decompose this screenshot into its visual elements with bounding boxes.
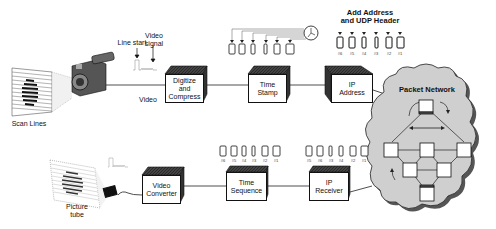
header-packets bbox=[337, 37, 404, 48]
clock-icon bbox=[304, 26, 318, 40]
video-converter-label: Video Converter bbox=[142, 175, 181, 204]
time-sequence-label: Time Sequence bbox=[226, 172, 267, 201]
video-line-label: Video bbox=[136, 96, 160, 104]
header-packet-label: #3 bbox=[371, 51, 381, 56]
timestamp-packets bbox=[229, 44, 294, 54]
header-packet-label: #2 bbox=[384, 51, 394, 56]
sequenced-packets bbox=[220, 146, 280, 156]
picture-tube-icon bbox=[50, 158, 128, 208]
add-address-label: Add Address and UDP Header bbox=[330, 9, 410, 25]
receiver-packets bbox=[306, 146, 368, 156]
video-over-ip-diagram: Scan Lines Line start Video signal Video… bbox=[0, 0, 496, 229]
receiver-packet-label: #5 bbox=[304, 158, 314, 163]
sequenced-packet-label: #3 bbox=[249, 158, 259, 163]
video-camera-icon bbox=[72, 52, 115, 96]
ip-receiver-label: IP Receiver bbox=[309, 172, 349, 201]
sequenced-packet-label: #1 bbox=[271, 158, 281, 163]
receiver-packet-label: #4 bbox=[336, 158, 346, 163]
header-packet-label: #6 bbox=[335, 51, 345, 56]
ip-address-label: IP Address bbox=[331, 74, 373, 103]
header-packet-label: #5 bbox=[347, 51, 357, 56]
receiver-packet-label: #2 bbox=[348, 158, 358, 163]
receiver-packet-label: #6 bbox=[315, 158, 325, 163]
sequenced-packet-label: #5 bbox=[229, 158, 239, 163]
sequenced-packet-label: #2 bbox=[260, 158, 270, 163]
video-signal-label: Video signal bbox=[143, 32, 165, 48]
scan-lines-label: Scan Lines bbox=[6, 120, 52, 128]
receiver-packet-label: #1 bbox=[359, 158, 369, 163]
header-packet-label: #4 bbox=[359, 51, 369, 56]
time-stamp-label: Time Stamp bbox=[248, 74, 287, 103]
sequenced-packet-label: #4 bbox=[239, 158, 249, 163]
packet-network-label: Packet Network bbox=[396, 86, 458, 94]
scan-lines-screen bbox=[12, 68, 72, 116]
digitize-compress-label: Digitize and Compress bbox=[165, 74, 204, 103]
timestamp-feed-lines bbox=[232, 29, 306, 40]
picture-tube-label: Picture tube bbox=[62, 203, 92, 219]
receiver-packet-label: #3 bbox=[326, 158, 336, 163]
header-packet-label: #1 bbox=[395, 51, 405, 56]
sequenced-packet-label: #6 bbox=[218, 158, 228, 163]
